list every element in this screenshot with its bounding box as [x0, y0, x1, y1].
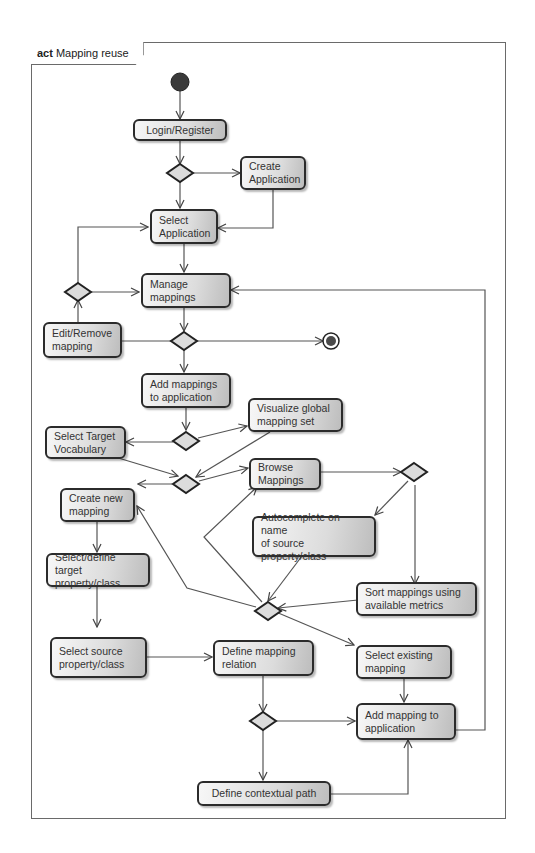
action-define-mapping-relation: Define mapping relation [213, 640, 314, 676]
decision-diamond-4 [173, 432, 199, 450]
action-define-contextual-path: Define contextual path [197, 781, 331, 806]
action-manage-mappings: Manage mappings [141, 273, 231, 308]
action-autocomplete-source: Autocomplete on name of source property/… [252, 516, 376, 557]
initial-node [171, 73, 189, 91]
action-visualize-global-mapping-set: Visualize global mapping set [248, 398, 343, 432]
action-select-application: Select Application [150, 209, 218, 244]
action-create-new-mapping: Create new mapping [60, 488, 135, 522]
action-add-mapping-to-application: Add mapping to application [356, 703, 456, 740]
action-select-define-target: Select/define target property/class [46, 553, 150, 587]
decision-diamond-3 [171, 332, 197, 350]
decision-diamond-1 [167, 164, 193, 182]
decision-diamond-6 [401, 463, 427, 481]
action-edit-remove-mapping: Edit/Remove mapping [43, 322, 122, 358]
edges [78, 91, 485, 794]
action-login-register: Login/Register [133, 119, 227, 141]
decision-diamond-5 [173, 475, 199, 493]
action-select-target-vocabulary: Select Target Vocabulary [45, 426, 126, 459]
action-add-mappings-to-application: Add mappings to application [141, 373, 231, 408]
activity-diagram: actMapping reuse [0, 0, 535, 853]
decision-diamond-7 [255, 602, 281, 620]
action-select-existing-mapping: Select existing mapping [356, 645, 452, 679]
action-create-application: Create Application [240, 156, 306, 190]
action-select-source: Select source property/class [50, 637, 147, 678]
action-sort-mappings: Sort mappings using available metrics [356, 582, 477, 616]
action-browse-mappings: Browse Mappings [249, 458, 321, 490]
decision-diamond-8 [250, 712, 276, 730]
final-node [323, 333, 339, 349]
decision-diamond-2 [65, 283, 91, 301]
